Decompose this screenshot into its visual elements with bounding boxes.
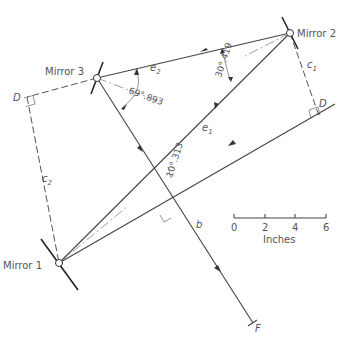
- label-c1: c1: [307, 59, 317, 73]
- mirror-3-label: Mirror 3: [45, 66, 84, 77]
- construction-line-m3-d: [27, 78, 97, 97]
- label-e1: e1: [202, 122, 213, 136]
- label-c2: c2: [42, 173, 53, 187]
- construction-line-c1: [290, 33, 319, 116]
- bisector-m2: [245, 33, 290, 56]
- bisector-m1: [59, 206, 128, 263]
- mirror-1-label: Mirror 1: [3, 260, 42, 271]
- label-d-right: D: [319, 98, 327, 109]
- scale-unit-label: Inches: [263, 234, 296, 245]
- mirror-geometry-diagram: Mirror 3 Mirror 2 Mirror 1 D D e2 e1 c1 …: [0, 0, 348, 348]
- right-angle-marker-left: [24, 96, 35, 107]
- mirror-2: [282, 17, 298, 49]
- scale-bar: 0 2 4 6 Inches: [231, 214, 329, 245]
- right-angle-marker-center: [160, 215, 171, 222]
- arrow-lower: [228, 140, 236, 146]
- label-d-left: D: [13, 92, 21, 103]
- beam-e2: [97, 33, 290, 78]
- arrow-b-lower: [214, 265, 221, 272]
- mirror-2-label: Mirror 2: [297, 28, 336, 39]
- angle-label-center: 10°.313: [164, 141, 185, 178]
- angle-label-m2: 30°.419: [213, 41, 234, 79]
- scale-tick-0: 0: [231, 222, 237, 233]
- mirror-3: [91, 62, 103, 94]
- label-e2: e2: [150, 62, 161, 76]
- label-f: F: [255, 323, 261, 334]
- label-b: b: [196, 219, 202, 230]
- mirror-1: [41, 239, 78, 290]
- scale-tick-4: 4: [292, 222, 298, 233]
- beam-b: [97, 78, 253, 323]
- scale-tick-6: 6: [323, 222, 329, 233]
- scale-tick-2: 2: [262, 222, 268, 233]
- angle-label-m3: 69°.893: [127, 85, 164, 107]
- arrow-e2: [200, 48, 208, 52]
